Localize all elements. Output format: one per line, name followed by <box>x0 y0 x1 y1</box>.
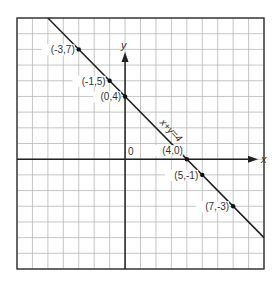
x-axis-label: x <box>260 153 267 165</box>
x-axis-arrow-icon <box>248 156 258 163</box>
point-label: (-3,7) <box>51 44 75 55</box>
points: (-3,7)(-1,5)(0,4)(4,0)(5,-1)(7,-3) <box>42 44 236 212</box>
origin-label: 0 <box>128 146 134 157</box>
point-label: (5,-1) <box>174 170 198 181</box>
data-point <box>200 173 204 177</box>
point-label: (-1,5) <box>82 76 106 87</box>
axes: x y 0 <box>17 39 267 269</box>
point-label: (7,-3) <box>205 201 229 212</box>
data-point <box>123 94 127 98</box>
y-axis-arrow-icon <box>122 52 129 62</box>
point-label: (0,4) <box>101 91 122 102</box>
data-point <box>185 157 189 161</box>
point-label: (4,0) <box>162 145 183 156</box>
coordinate-plane: x y 0 x+y=4 (-3,7)(-1,5)(0,4)(4,0)(5,-1)… <box>0 0 275 283</box>
data-point <box>107 79 111 83</box>
data-point <box>77 47 81 51</box>
data-point <box>231 204 235 208</box>
grid <box>17 18 264 269</box>
